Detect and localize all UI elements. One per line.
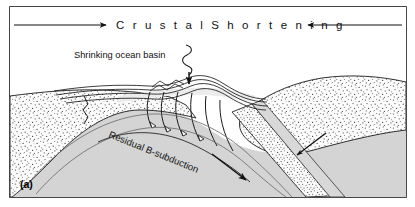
geological-cross-section-diagram: C r u s t a l S h o r t e n i n g Shrink… xyxy=(0,0,415,207)
figure-title: C r u s t a l S h o r t e n i n g xyxy=(116,19,345,31)
figure-container: C r u s t a l S h o r t e n i n g Shrink… xyxy=(0,0,415,207)
ocean-basin-label: Shrinking ocean basin xyxy=(74,50,165,60)
panel-label: (a) xyxy=(20,178,33,190)
